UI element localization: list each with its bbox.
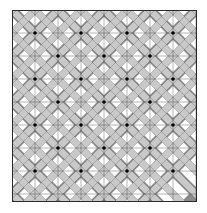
cross-point-dot [148, 146, 152, 150]
star-point-dot [33, 77, 37, 81]
star-point-dot [125, 77, 129, 81]
star-point-dot [171, 31, 175, 35]
cross-point-dot [148, 54, 152, 58]
star-point-dot [125, 169, 129, 173]
star-point-dot [171, 77, 175, 81]
star-point-dot [33, 31, 37, 35]
star-point-dot [79, 169, 83, 173]
star-point-dot [33, 169, 37, 173]
star-point-dot [125, 123, 129, 127]
quilt-pattern-svg [12, 10, 197, 202]
cross-point-dot [102, 146, 106, 150]
quilt-diagram [12, 10, 197, 202]
star-point-dot [171, 123, 175, 127]
cross-point-dot [102, 54, 106, 58]
cross-point-dot [148, 100, 152, 104]
star-point-dot [79, 77, 83, 81]
star-point-dot [79, 31, 83, 35]
cross-point-dot [56, 146, 60, 150]
star-point-dot [33, 123, 37, 127]
star-point-dot [171, 169, 175, 173]
star-point-dot [79, 123, 83, 127]
cross-point-dot [56, 54, 60, 58]
cross-point-dot [102, 100, 106, 104]
star-point-dot [125, 31, 129, 35]
cross-point-dot [56, 100, 60, 104]
